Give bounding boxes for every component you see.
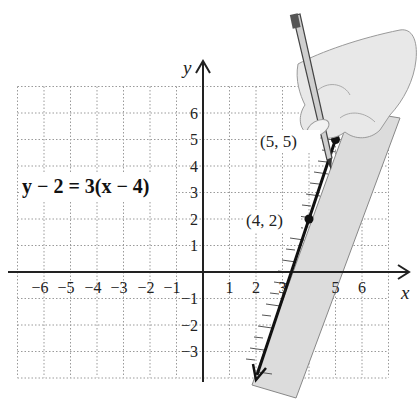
x-tick: 6 — [358, 279, 366, 296]
y-tick: 6 — [190, 105, 198, 122]
x-tick: 2 — [252, 279, 260, 296]
x-tick: −1 — [163, 279, 180, 296]
x-tick: −2 — [137, 279, 154, 296]
x-axis-label: x — [400, 282, 410, 303]
y-tick: 5 — [190, 131, 198, 148]
y-tick: −2 — [181, 317, 198, 334]
point-4-2 — [305, 215, 314, 224]
x-tick: 3 — [279, 279, 287, 296]
graph: −6 −5 −4 −3 −2 −1 1 2 3 5 6 6 5 4 3 2 1 … — [0, 0, 420, 413]
y-tick: −3 — [181, 343, 198, 360]
x-tick: −6 — [31, 279, 48, 296]
x-tick: −3 — [110, 279, 127, 296]
y-tick: 3 — [190, 184, 198, 201]
x-tick: −5 — [57, 279, 74, 296]
y-tick: 1 — [190, 237, 198, 254]
x-tick: 5 — [332, 279, 340, 296]
y-tick: −1 — [181, 290, 198, 307]
ruler — [246, 110, 400, 398]
point-label-5-5: (5, 5) — [260, 132, 297, 151]
y-tick-labels: 6 5 4 3 2 1 −1 −2 −3 — [181, 105, 198, 360]
y-tick: 2 — [190, 211, 198, 228]
y-axis-label: y — [181, 57, 192, 78]
y-tick: 4 — [190, 158, 198, 175]
point-label-4-2: (4, 2) — [246, 211, 283, 230]
x-tick: −4 — [84, 279, 101, 296]
equation-label: y − 2 = 3(x − 4) — [22, 175, 150, 198]
x-tick: 1 — [226, 279, 234, 296]
